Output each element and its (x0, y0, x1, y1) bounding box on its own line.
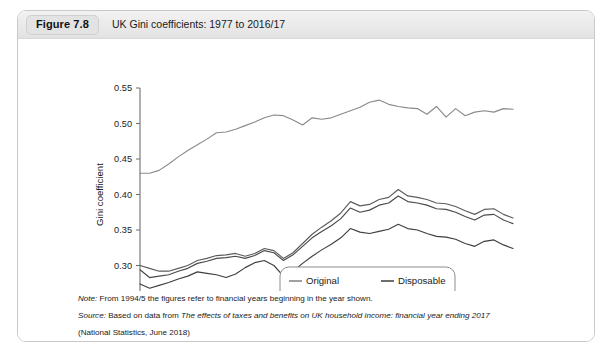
y-tick-label: 0.50 (114, 119, 132, 129)
y-tick-label: 0.35 (114, 225, 132, 235)
y-tick-label: 0.45 (114, 154, 132, 164)
y-tick-label: 0.40 (114, 190, 132, 200)
source-label: Source: (78, 311, 106, 320)
source-text-lead: Based on data from (106, 311, 181, 320)
source-publisher: (National Statistics, June 2018) (78, 328, 190, 337)
figure-card: Figure 7.8 UK Gini coefficients: 1977 to… (17, 10, 595, 342)
y-axis-tick-labels: 0.250.300.350.400.450.500.55 (114, 83, 132, 291)
series-line-original (140, 100, 513, 173)
source-publication-title: The effects of taxes and benefits on UK … (181, 311, 490, 320)
note-row: Note: From 1994/5 the figures refer to f… (78, 292, 578, 305)
figure-title: UK Gini coefficients: 1977 to 2016/17 (112, 19, 285, 30)
source-row-continued: (National Statistics, June 2018) (78, 326, 578, 339)
source-row: Source: Based on data from The effects o… (78, 309, 578, 322)
y-tick-label: 0.30 (114, 261, 132, 271)
legend-label-disposable: Disposable (398, 275, 445, 286)
note-label: Note: (78, 294, 97, 303)
y-tick-label: 0.55 (114, 83, 132, 93)
y-axis-title-text: Gini coefficient (94, 163, 105, 226)
figure-header: Figure 7.8 UK Gini coefficients: 1977 to… (18, 11, 594, 39)
figure-number-badge: Figure 7.8 (26, 15, 99, 35)
note-text: From 1994/5 the figures refer to financi… (97, 294, 372, 303)
chart-series-lines (140, 100, 513, 288)
chart-plot-area: 0.250.300.350.400.450.500.55 19771982198… (18, 39, 595, 291)
legend-label-original: Original (306, 275, 339, 286)
figure-notes: Note: From 1994/5 the figures refer to f… (78, 292, 578, 342)
series-line-disposable (140, 196, 513, 278)
figure-body: 0.250.300.350.400.450.500.55 19771982198… (18, 39, 594, 342)
chart-legend: OriginalDisposableGrossPost Tax (280, 267, 455, 291)
legend-label-post-tax: Post Tax (398, 290, 435, 291)
y-axis-title: Gini coefficient (94, 163, 105, 226)
gini-line-chart: 0.250.300.350.400.450.500.55 19771982198… (18, 39, 595, 291)
series-line-gross (140, 190, 513, 272)
legend-label-gross: Gross (306, 290, 332, 291)
